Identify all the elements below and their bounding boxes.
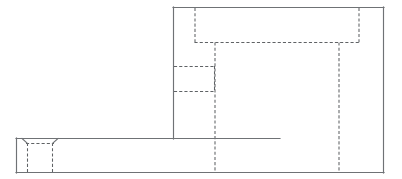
technical-drawing-canvas: [0, 0, 402, 179]
lower-horizontal-base-face: [17, 139, 384, 173]
